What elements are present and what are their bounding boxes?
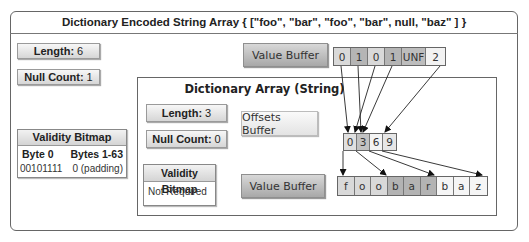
offsets-buffer-label: Offsets Buffer [241,111,318,136]
char-cell: o [355,177,372,195]
offset-cell: 6 [370,134,383,150]
index-cell: 1 [385,48,402,65]
length-label: Length: [34,45,74,57]
offsets-buffer-cells: 0 3 6 9 [343,133,397,151]
dictionary-validity-bitmap: Validity Bitmap Not Required [143,164,216,206]
validity-bitmap-columns: Byte 0 Bytes 1-63 [18,146,126,160]
byte-0-value: 00101111 [20,163,62,174]
dictionary-length-label: Length: [162,107,202,119]
char-cell: z [470,177,487,195]
char-cell: f [338,177,355,195]
validity-bitmap-header: Validity Bitmap [18,130,126,146]
dictionary-length-box: Length: 3 [146,104,227,122]
index-cell: 0 [368,48,385,65]
char-cell: b [437,177,454,195]
dictionary-array-title: Dictionary Array (String) [137,82,392,96]
index-cell: 2 [426,48,445,65]
dictionary-value-buffer-label: Value Buffer [241,174,325,198]
column-bytes-1-63: Bytes 1-63 [70,148,123,160]
dictionary-value-buffer-cells: f o o b a r b a z [337,176,488,196]
char-cell: r [421,177,438,195]
value-buffer-cells: 0 1 0 1 UNF 2 [333,47,446,66]
length-box: Length: 6 [17,43,100,59]
null-count-box: Null Count: 1 [17,69,100,85]
dictionary-null-count-label: Null Count: [152,133,211,145]
null-count-label: Null Count: [24,71,83,83]
char-cell: a [454,177,471,195]
value-buffer-label: Value Buffer [243,43,328,67]
null-count-value: 1 [87,71,93,83]
offset-cell: 9 [383,134,396,150]
dictionary-validity-bitmap-header: Validity Bitmap [144,165,215,182]
dictionary-null-count-box: Null Count: 0 [146,130,227,148]
index-cell: 1 [351,48,368,65]
offset-cell: 0 [344,134,357,150]
offset-cell: 3 [357,134,370,150]
char-cell: b [388,177,405,195]
diagram-title: Dictionary Encoded String Array { ["foo"… [10,11,518,34]
dictionary-null-count-value: 0 [215,133,221,145]
char-cell: a [404,177,421,195]
index-cell: 0 [334,48,351,65]
validity-bitmap-values: 00101111 0 (padding) [18,160,126,174]
column-byte-0: Byte 0 [22,148,54,160]
char-cell: o [371,177,388,195]
bytes-1-63-value: 0 (padding) [72,163,123,174]
validity-bitmap-table: Validity Bitmap Byte 0 Bytes 1-63 001011… [17,129,127,178]
index-cell-null: UNF [402,48,426,65]
dictionary-length-value: 3 [205,107,211,119]
length-value: 6 [77,45,83,57]
